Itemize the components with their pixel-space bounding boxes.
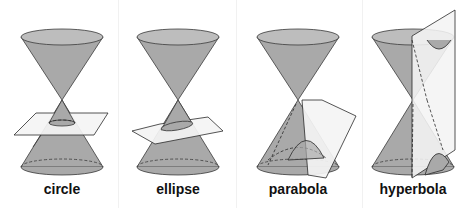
label-parabola: parabola <box>243 181 353 197</box>
label-hyperbola: hyperbola <box>358 181 466 197</box>
hyperbola-panel <box>372 10 455 178</box>
label-circle: circle <box>7 181 117 197</box>
ellipse-panel <box>132 29 223 175</box>
conic-sections-diagram <box>0 0 466 208</box>
label-ellipse: ellipse <box>123 181 233 197</box>
parabola-panel <box>257 29 356 178</box>
circle-panel <box>14 29 108 175</box>
